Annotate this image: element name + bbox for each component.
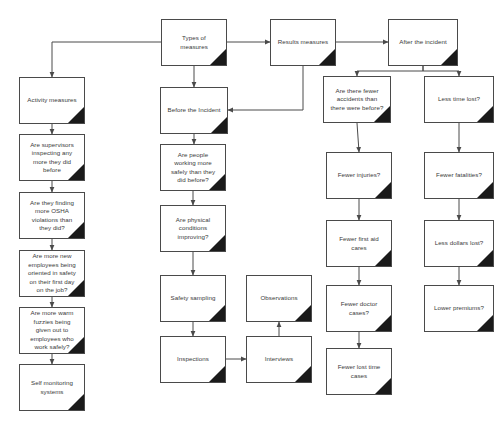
connector-after-to-accidents: [357, 66, 423, 76]
node-safety-sampling[interactable]: Safety sampling: [160, 275, 226, 322]
node-label: Fewer first aid cares: [327, 235, 391, 252]
node-label: Are there fewer accidents than there wer…: [324, 87, 390, 112]
node-label: Fewer lost time cases: [327, 363, 391, 380]
node-label: Fewer injuries?: [327, 171, 391, 179]
folded-corner-icon: [211, 117, 227, 133]
folded-corner-icon: [295, 305, 311, 321]
node-after-the-incident[interactable]: After the incident: [388, 19, 458, 66]
folded-corner-icon: [210, 49, 226, 65]
node-label: Are supervisors inspecting any more they…: [20, 141, 84, 175]
folded-corner-icon: [68, 394, 84, 410]
node-are-more-new-employees[interactable]: Are more new employees being oriented in…: [19, 250, 85, 297]
folded-corner-icon: [375, 182, 391, 198]
node-are-supervisors-inspecting[interactable]: Are supervisors inspecting any more they…: [19, 134, 85, 181]
folded-corner-icon: [477, 182, 493, 198]
node-label: After the incident: [389, 38, 457, 46]
node-less-dollars-lost[interactable]: Less dollars lost?: [424, 220, 494, 267]
node-fewer-injuries[interactable]: Fewer injuries?: [326, 152, 392, 199]
node-less-time-lost[interactable]: Less time lost?: [424, 76, 494, 123]
node-fewer-fatalities[interactable]: Fewer fatalities?: [424, 152, 494, 199]
node-label: Safety sampling: [161, 294, 225, 302]
node-label: Before the Incident: [161, 106, 227, 114]
node-label: Lower premiums?: [425, 304, 493, 312]
connector-accidents-to-injuries: [357, 123, 359, 152]
folded-corner-icon: [477, 106, 493, 122]
connector-after-to-less-time-lost: [423, 66, 459, 76]
node-label: Inspections: [161, 355, 225, 363]
node-are-people-working-safely[interactable]: Are people working more safely than they…: [160, 144, 226, 191]
folded-corner-icon: [319, 49, 335, 65]
node-label: Are they finding more OSHA violations th…: [20, 199, 84, 233]
node-label: Are more new employees being oriented in…: [20, 252, 84, 294]
node-label: Are physical conditions improving?: [161, 216, 225, 241]
node-label: Observations: [247, 294, 311, 302]
connector-types-to-activity: [52, 42, 161, 77]
node-interviews[interactable]: Interviews: [246, 336, 312, 383]
folded-corner-icon: [375, 250, 391, 266]
folded-corner-icon: [375, 315, 391, 331]
node-fewer-lost-time-cases[interactable]: Fewer lost time cases: [326, 348, 392, 395]
node-label: Results measures: [271, 38, 335, 46]
node-fewer-first-aid-cares[interactable]: Fewer first aid cares: [326, 220, 392, 267]
node-label: Interviews: [247, 355, 311, 363]
node-label: Self monitoring systems: [20, 379, 84, 396]
folded-corner-icon: [477, 315, 493, 331]
folded-corner-icon: [295, 366, 311, 382]
node-label: Types of measures: [162, 34, 226, 51]
node-results-measures[interactable]: Results measures: [270, 19, 336, 66]
node-observations[interactable]: Observations: [246, 275, 312, 322]
node-inspections[interactable]: Inspections: [160, 336, 226, 383]
connector-results-to-before: [228, 66, 303, 110]
folded-corner-icon: [477, 250, 493, 266]
node-are-they-finding-osha[interactable]: Are they finding more OSHA violations th…: [19, 192, 85, 239]
node-fewer-doctor-cases[interactable]: Fewer doctor cases?: [326, 285, 392, 332]
node-label: Fewer doctor cases?: [327, 300, 391, 317]
node-are-more-warm-fuzzies[interactable]: Are more warm fuzzies being given out to…: [19, 307, 85, 354]
node-are-there-fewer-accidents[interactable]: Are there fewer accidents than there wer…: [323, 76, 391, 123]
node-label: Are people working more safely than they…: [161, 151, 225, 185]
node-label: Activity measures: [20, 96, 84, 104]
node-label: Less time lost?: [425, 95, 493, 103]
node-types-of-measures[interactable]: Types of measures: [161, 19, 227, 66]
node-lower-premiums[interactable]: Lower premiums?: [424, 285, 494, 332]
folded-corner-icon: [209, 305, 225, 321]
node-self-monitoring-systems[interactable]: Self monitoring systems: [19, 364, 85, 411]
node-label: Fewer fatalities?: [425, 171, 493, 179]
flowchart-canvas: Types of measuresResults measuresAfter t…: [0, 0, 502, 438]
folded-corner-icon: [375, 378, 391, 394]
folded-corner-icon: [209, 366, 225, 382]
node-label: Less dollars lost?: [425, 239, 493, 247]
node-activity-measures[interactable]: Activity measures: [19, 77, 85, 124]
node-before-the-incident[interactable]: Before the Incident: [160, 87, 228, 134]
node-label: Are more warm fuzzies being given out to…: [20, 309, 84, 351]
folded-corner-icon: [441, 49, 457, 65]
folded-corner-icon: [68, 107, 84, 123]
node-are-physical-conditions[interactable]: Are physical conditions improving?: [160, 205, 226, 252]
